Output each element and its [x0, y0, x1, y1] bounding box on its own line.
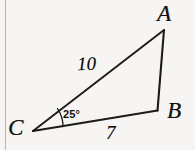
angle-measure-label-c: 25°: [63, 109, 80, 120]
triangle-side-ab: [158, 30, 165, 111]
side-length-label-cb: 7: [106, 123, 116, 142]
vertex-label-a: A: [157, 2, 171, 25]
triangle-side-cb: [33, 111, 158, 132]
triangle-side-ca: [33, 30, 164, 131]
vertex-label-c: C: [8, 116, 23, 139]
side-length-label-ca: 10: [77, 54, 97, 74]
vertex-label-b: B: [167, 99, 181, 122]
geometry-figure: A B C 10 7 25°: [0, 0, 195, 150]
